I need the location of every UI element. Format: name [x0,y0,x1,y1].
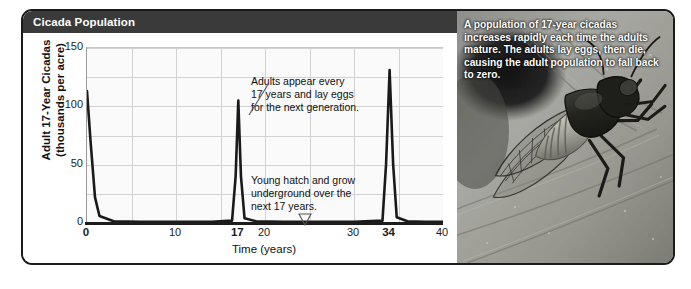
y-tick-label: 0 [49,215,83,227]
annotation-leader-line-1 [243,81,271,121]
annotation-pointer-2 [297,214,315,226]
x-tick-label: 34 [382,226,395,238]
x-axis-title: Time (years) [86,243,442,255]
x-tick-label: 0 [83,226,89,238]
figure-frame: Cicada Population Adult 17-Year Cicadas … [21,9,675,265]
y-axis-ticks: 150 100 50 0 [45,47,83,222]
x-tick-label: 30 [347,226,359,238]
y-tick-label: 50 [49,157,83,169]
x-tick-label: 40 [436,226,448,238]
x-axis-ticks: 0101720303440 [86,226,442,244]
annotation-young-hatch: Young hatch and grow underground over th… [251,174,381,213]
y-tick-label: 150 [49,40,83,52]
x-axis-line [85,222,443,225]
y-tick-label: 100 [49,98,83,110]
cicada-photo-panel: A population of 17-year cicadas increase… [457,11,673,263]
annotation-adults-appear: Adults appear every 17 years and lay egg… [251,75,391,114]
x-tick-label: 20 [258,226,270,238]
x-tick-label: 17 [231,226,244,238]
figure-root: Cicada Population Adult 17-Year Cicadas … [0,0,691,289]
x-tick-label: 10 [169,226,181,238]
panel-title: Cicada Population [23,11,457,33]
photo-caption: A population of 17-year cicadas increase… [464,19,664,82]
chart-panel: Cicada Population Adult 17-Year Cicadas … [23,11,457,263]
